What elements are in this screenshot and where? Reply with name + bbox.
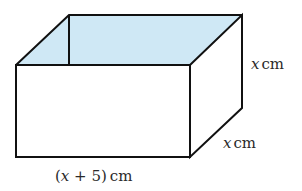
depth-label: xcm — [223, 134, 256, 152]
height-label: xcm — [251, 55, 284, 73]
length-label: (x + 5)cm — [55, 167, 132, 185]
front-face — [16, 65, 190, 157]
open-box-diagram: xcm xcm (x + 5)cm — [0, 0, 302, 191]
